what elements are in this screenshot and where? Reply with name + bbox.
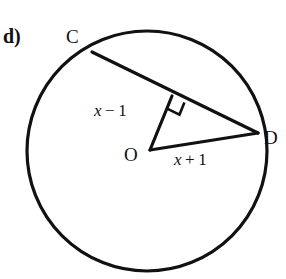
chord-cd: [92, 52, 258, 133]
segment-label-x-minus-1: x−1: [94, 102, 127, 119]
segment-label-x-minus-1-number: 1: [118, 101, 127, 120]
segment-label-x-plus-1-var: x: [174, 150, 182, 169]
perpendicular-o-to-chord: [150, 96, 172, 150]
segment-label-x-plus-1-number: 1: [198, 150, 207, 169]
segment-label-x-plus-1-operator: +: [182, 150, 198, 169]
point-label-c: C: [66, 27, 79, 46]
point-label-o: O: [124, 145, 138, 164]
segment-label-x-minus-1-operator: −: [102, 101, 118, 120]
segment-label-x-plus-1: x+1: [174, 151, 207, 168]
circle-geometry-diagram: [0, 0, 286, 279]
part-label: d): [3, 26, 21, 46]
point-label-d: D: [264, 128, 278, 147]
geometry-figure: d) C D O x−1 x+1: [0, 0, 286, 279]
radius-od: [150, 133, 258, 150]
circle-outline: [27, 31, 267, 271]
segment-label-x-minus-1-var: x: [94, 101, 102, 120]
